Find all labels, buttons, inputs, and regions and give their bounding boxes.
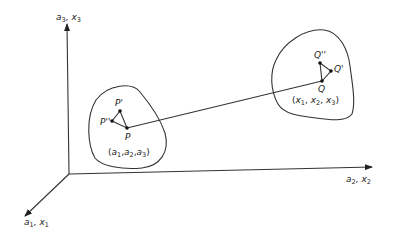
point-p-double-prime (110, 119, 114, 123)
point-q-prime (329, 69, 333, 73)
right-region-blob (272, 30, 354, 120)
right-region-coords: (x1, x2, x3) (292, 95, 339, 107)
horizontal-axis-label: a2, x2 (346, 174, 371, 186)
point-q-double-prime (318, 61, 322, 65)
vertical-axis (67, 24, 69, 174)
point-p (125, 126, 129, 130)
point-p-prime (118, 109, 122, 113)
label-q: Q (318, 84, 325, 94)
label-p-double-prime: P'' (100, 117, 110, 127)
left-region-coords: (a1,a2,a3) (108, 147, 150, 159)
left-triangle (110, 109, 129, 130)
diagonal-axis (25, 174, 69, 216)
right-triangle (318, 61, 333, 83)
point-q (320, 79, 324, 83)
coordinate-mapping-diagram: a3, x3 a2, x2 a1, x1 P P' P'' (a1,a2,a3)… (0, 0, 394, 233)
horizontal-axis (69, 167, 372, 174)
label-q-prime: Q' (334, 64, 344, 74)
label-p: P (125, 132, 131, 142)
label-p-prime: P' (115, 98, 123, 108)
label-q-double-prime: Q'' (314, 50, 326, 60)
vertical-axis-label: a3, x3 (56, 12, 81, 24)
diagonal-axis-label: a1, x1 (24, 217, 49, 229)
